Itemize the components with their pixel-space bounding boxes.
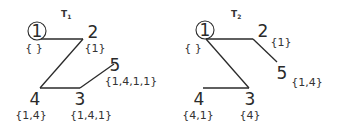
tree-t2: T2 1 { } 2 {1} 5 {1,4} 4 {4,1} 3 {4}	[182, 9, 323, 122]
tree-t2-node-4: 4	[194, 89, 205, 109]
tree-t1-node-2-label: {1}	[85, 42, 106, 55]
tree-t1-edge-2-4	[40, 39, 83, 88]
tree-t2-node-4-label: {4,1}	[182, 109, 214, 122]
tree-t2-node-2: 2	[258, 21, 269, 41]
tree-t2-node-1-label: { }	[184, 42, 202, 55]
tree-t1-node-3: 3	[75, 89, 86, 109]
tree-t2-title: T2	[231, 9, 241, 20]
tree-t1-node-4-label: {1,4}	[15, 109, 47, 122]
tree-t1-node-1: 1	[32, 21, 43, 41]
tree-t2-node-2-label: {1}	[271, 36, 292, 49]
tree-t1: T1 1 { } 2 {1} 5 {1,4,1,1} 4 {1,4} 3 {1,…	[15, 9, 157, 122]
tree-diagram-canvas: T1 1 { } 2 {1} 5 {1,4,1,1} 4 {1,4} 3 {1,…	[0, 0, 341, 131]
tree-t1-node-4: 4	[30, 89, 41, 109]
tree-t1-node-1-label: { }	[25, 42, 43, 55]
tree-t2-node-1: 1	[200, 20, 211, 40]
tree-t1-node-3-label: {1,4,1}	[70, 109, 112, 122]
tree-t1-title: T1	[61, 9, 71, 20]
tree-t2-node-5-label: {1,4}	[291, 76, 323, 89]
tree-t2-node-3: 3	[245, 89, 256, 109]
tree-t2-edge-1-3	[206, 39, 249, 88]
tree-t1-node-5: 5	[110, 55, 121, 75]
tree-t2-node-5: 5	[277, 63, 288, 83]
tree-t2-node-3-label: {4}	[240, 109, 261, 122]
tree-t1-node-2: 2	[88, 22, 99, 42]
tree-t1-node-5-label: {1,4,1,1}	[105, 75, 157, 88]
